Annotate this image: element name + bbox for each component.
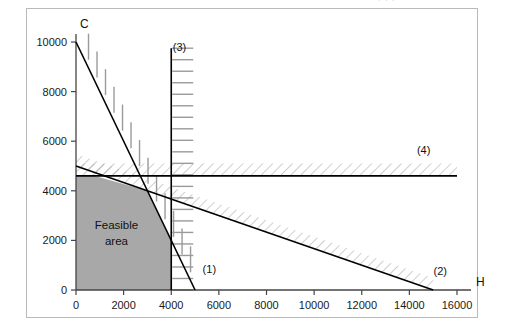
x-tick-label: 14000 [394,299,425,311]
x-tick-label: 10000 [299,299,330,311]
y-axis-name: C [80,17,89,31]
y-tick-label: 0 [61,284,67,296]
feasible-area-label-2: area [105,235,129,247]
x-tick-label: 6000 [207,299,231,311]
x-tick-label: 4000 [159,299,183,311]
y-tick-label: 6000 [43,135,67,147]
y-tick-label: 4000 [43,185,67,197]
line-label-4: (4) [417,144,430,156]
x-tick-label: 2000 [111,299,135,311]
x-axis-name: H [476,275,485,289]
x-tick-label: 16000 [442,299,473,311]
y-tick-label: 8000 [43,86,67,98]
figure-stage: · · · 0200040006000800010000120001400016… [0,0,506,333]
line-label-2: (2) [434,265,447,277]
line-label-1: (1) [203,263,216,275]
feasible-area-label-1: Feasible [95,219,138,231]
x-tick-label: 0 [73,299,79,311]
y-tick-label: 2000 [43,234,67,246]
x-tick-label: 12000 [346,299,377,311]
x-tick-label: 8000 [254,299,278,311]
line-label-3: (3) [173,41,186,53]
lp-graph: 0200040006000800010000120001400016000020… [0,0,506,333]
y-tick-label: 10000 [36,36,67,48]
